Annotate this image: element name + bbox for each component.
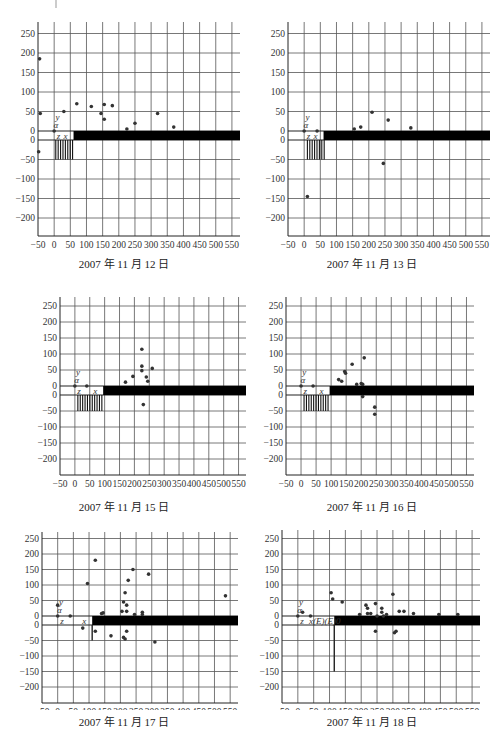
axis-label-x: x — [319, 386, 324, 396]
data-point — [386, 118, 390, 122]
y-tick-label: −100 — [15, 174, 35, 184]
data-point — [102, 118, 106, 122]
x-tick-label: 100 — [324, 479, 339, 489]
data-point — [224, 594, 228, 598]
x-tick-label: −50 — [53, 479, 68, 489]
data-point — [153, 640, 157, 644]
y-tick-label: −100 — [37, 422, 57, 432]
y-tick-label: 50 — [26, 107, 36, 117]
data-point — [140, 364, 144, 368]
x-tick-label: 100 — [322, 707, 337, 710]
data-point — [140, 369, 144, 373]
y-tick-label: 100 — [265, 580, 280, 590]
x-tick-label: 500 — [459, 240, 474, 250]
filled-band — [103, 386, 246, 395]
data-point — [126, 579, 130, 583]
x-tick-label: 0 — [295, 707, 300, 710]
y-tick-label: −150 — [259, 667, 279, 677]
data-point — [38, 57, 42, 61]
data-point — [62, 110, 66, 114]
y-tick-label: 250 — [43, 301, 58, 311]
axis-label-x: x — [63, 131, 68, 141]
data-point — [375, 614, 379, 618]
y-tick-label: 50 — [274, 365, 284, 375]
data-point — [94, 558, 98, 562]
y-tick-label: −200 — [265, 213, 285, 223]
y-tick-label: 150 — [269, 333, 284, 343]
data-point — [125, 629, 129, 633]
data-point — [299, 384, 303, 388]
chart-panel-nov17: 2502001501005000−50−100−150−200−50050100… — [0, 510, 248, 738]
x-tick-label: 450 — [192, 240, 207, 250]
data-point — [111, 104, 115, 108]
x-tick-label: 250 — [129, 707, 144, 710]
x-tick-label: 100 — [82, 707, 97, 710]
x-tick-label: 350 — [402, 707, 417, 710]
filled-band — [330, 386, 474, 395]
y-tick-label: 200 — [271, 48, 286, 58]
filled-band — [74, 131, 240, 140]
data-point — [373, 405, 377, 409]
y-tick-label: −150 — [265, 194, 285, 204]
data-point — [382, 614, 386, 618]
x-tick-label: 50 — [66, 240, 76, 250]
data-point — [456, 613, 460, 617]
x-tick-label: 550 — [231, 479, 246, 489]
data-point — [68, 614, 72, 618]
x-tick-label: 200 — [113, 707, 128, 710]
scatter-plot-nov16: 2502001501005000−50−100−150−200−50050100… — [248, 285, 496, 497]
y-tick-label: 200 — [269, 317, 284, 327]
y-tick-label: 200 — [265, 549, 280, 559]
y-tick-label: 50 — [276, 107, 286, 117]
x-tick-label: 400 — [176, 707, 191, 710]
y-tick-label: −200 — [19, 682, 39, 692]
data-point — [99, 112, 103, 116]
x-tick-label: 200 — [112, 240, 127, 250]
data-point — [340, 600, 344, 604]
data-point — [359, 125, 363, 129]
y-tick-label: 200 — [21, 48, 36, 58]
x-tick-label: 200 — [354, 479, 369, 489]
x-tick-label: −50 — [279, 479, 294, 489]
data-point — [150, 367, 154, 371]
y-tick-label: −150 — [15, 194, 35, 204]
y-tick-label: 150 — [265, 565, 280, 575]
x-tick-label: 300 — [386, 707, 401, 710]
data-point — [402, 610, 406, 614]
y-tick-label: −100 — [19, 651, 39, 661]
scatter-plot-nov18: 2502001501005000−50−100−150−200−50050100… — [248, 510, 496, 710]
data-point — [366, 612, 370, 616]
axis-label-z: z — [299, 616, 304, 626]
x-tick-label: 500 — [209, 240, 224, 250]
data-point — [355, 383, 359, 387]
y-tick-label: −50 — [20, 155, 35, 165]
data-point — [56, 603, 60, 607]
x-tick-label: 450 — [442, 240, 457, 250]
y-tick-label: 250 — [265, 534, 280, 544]
y-tick-label: 150 — [25, 565, 40, 575]
x-tick-label: 150 — [346, 240, 361, 250]
data-point — [382, 162, 386, 166]
data-point — [125, 610, 129, 614]
x-tick-label: 150 — [98, 707, 113, 710]
data-point — [52, 129, 56, 133]
x-tick-label: 500 — [449, 707, 464, 710]
x-tick-label: 400 — [414, 479, 429, 489]
axis-label-z: z — [306, 131, 311, 141]
x-tick-label: −50 — [275, 707, 290, 710]
x-tick-label: 250 — [378, 240, 393, 250]
data-point — [37, 150, 41, 154]
data-point — [361, 395, 365, 399]
data-point — [90, 105, 94, 109]
data-point — [306, 195, 310, 199]
scatter-plot-nov17: 2502001501005000−50−100−150−200−50050100… — [0, 510, 248, 710]
data-point — [352, 127, 356, 131]
x-tick-label: 150 — [96, 240, 111, 250]
scatter-plot-nov15: 2502001501005000−50−100−150−200−50050100… — [0, 285, 248, 497]
y-tick-label: 0 — [280, 135, 285, 145]
data-point — [364, 603, 368, 607]
data-point — [309, 614, 313, 618]
data-point — [85, 384, 89, 388]
chart-caption: 2007 年 11 月 13 日 — [248, 255, 496, 271]
data-point — [361, 383, 365, 387]
